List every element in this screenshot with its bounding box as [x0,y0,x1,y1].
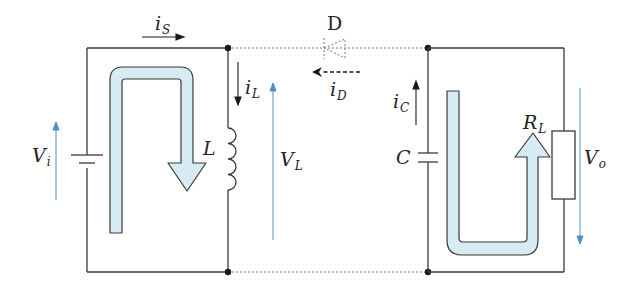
input-flow-arrow [110,67,206,233]
output-voltage-label: Vo [584,148,606,170]
voltage-arrows [53,83,583,244]
inductor-icon [228,128,236,190]
inductor-voltage-label: VL [280,150,303,172]
inductor-label: L [203,139,216,158]
source-voltage-label: Vi [32,146,51,168]
capacitor-current-label: iC [393,92,409,114]
inductor-current-label: iL [245,78,260,100]
capacitor-icon [418,153,438,162]
diode-label: D [327,14,342,33]
battery-icon [71,155,103,163]
diode-current-label: iD [330,80,347,102]
resistor-icon [552,131,575,199]
capacitor-label: C [396,148,411,167]
source-current-label: iS [155,14,170,36]
left-loop-wires [87,48,228,272]
load-label: RL [523,113,546,135]
boost-converter-diagram: iS iL D iD iC Vi L VL C RL Vo [0,0,629,289]
diode-current-arrow [312,67,360,77]
